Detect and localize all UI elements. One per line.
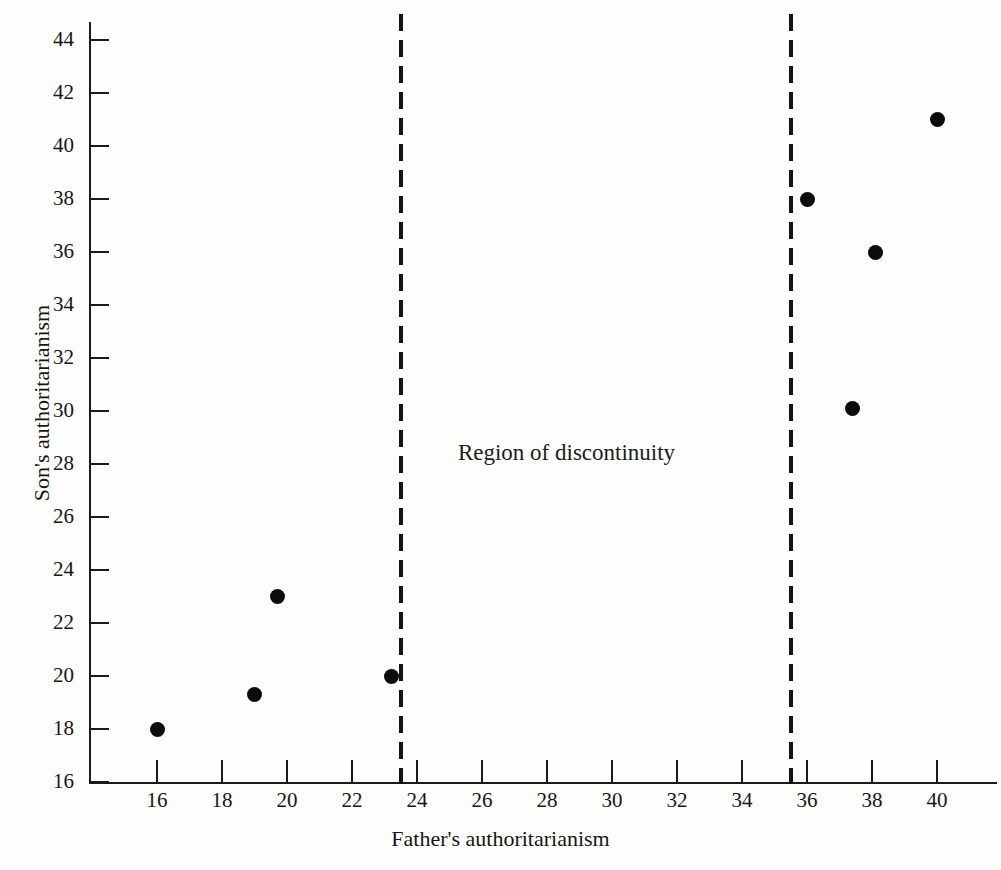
x-axis-tick (871, 760, 873, 782)
x-axis-tick (676, 760, 678, 782)
y-axis-tick-label: 20 (28, 665, 74, 686)
y-axis-line (89, 22, 91, 784)
x-axis-tick (416, 760, 418, 782)
x-axis-tick (611, 760, 613, 782)
x-axis-tick (481, 760, 483, 782)
scatter-plot-figure: 161820222426283032343638404244 161820222… (0, 0, 1001, 870)
x-axis-tick (741, 760, 743, 782)
y-axis-tick (91, 410, 109, 412)
data-point (270, 589, 285, 604)
data-point (247, 687, 262, 702)
y-axis-tick-label: 44 (28, 29, 74, 50)
x-axis-tick-label: 36 (777, 790, 837, 811)
x-axis-tick (156, 760, 158, 782)
y-axis-tick (91, 728, 109, 730)
y-axis-tick (91, 251, 109, 253)
y-axis-tick-label: 38 (28, 188, 74, 209)
data-point (384, 669, 399, 684)
region-of-discontinuity-label: Region of discontinuity (458, 440, 675, 466)
x-axis-tick (286, 760, 288, 782)
x-axis-tick (936, 760, 938, 782)
y-axis-tick-label: 16 (28, 771, 74, 792)
x-axis-tick (806, 760, 808, 782)
x-axis-tick (351, 760, 353, 782)
y-axis-tick-label: 40 (28, 135, 74, 156)
data-point (930, 112, 945, 127)
y-axis-title: Son's authoritarianism (29, 243, 55, 563)
x-axis-tick-label: 34 (712, 790, 772, 811)
x-axis-tick-label: 26 (452, 790, 512, 811)
y-axis-tick (91, 304, 109, 306)
y-axis-tick (91, 622, 109, 624)
discontinuity-boundary-line (399, 14, 403, 784)
x-axis-tick-label: 40 (907, 790, 967, 811)
x-axis-tick (546, 760, 548, 782)
x-axis-tick-label: 30 (582, 790, 642, 811)
x-axis-tick-label: 18 (192, 790, 252, 811)
x-axis-tick (221, 760, 223, 782)
y-axis-tick (91, 92, 109, 94)
data-point (150, 722, 165, 737)
x-axis-title: Father's authoritarianism (0, 826, 1001, 852)
data-point (800, 192, 815, 207)
y-axis-tick-label: 42 (28, 82, 74, 103)
y-axis-tick (91, 569, 109, 571)
x-axis-tick-label: 28 (517, 790, 577, 811)
y-axis-tick-label: 18 (28, 718, 74, 739)
y-axis-tick (91, 198, 109, 200)
x-axis-line (89, 782, 997, 784)
y-axis-tick (91, 463, 109, 465)
y-axis-tick (91, 357, 109, 359)
x-axis-tick-label: 38 (842, 790, 902, 811)
x-axis-tick-label: 32 (647, 790, 707, 811)
y-axis-tick (91, 516, 109, 518)
y-axis-tick (91, 39, 109, 41)
x-axis-tick-label: 20 (257, 790, 317, 811)
y-axis-tick (91, 145, 109, 147)
x-axis-tick-label: 24 (387, 790, 447, 811)
y-axis-tick (91, 675, 109, 677)
x-axis-tick-label: 16 (127, 790, 187, 811)
data-point (845, 401, 860, 416)
x-axis-tick-label: 22 (322, 790, 382, 811)
y-axis-tick (91, 781, 109, 783)
discontinuity-boundary-line (789, 14, 793, 784)
y-axis-tick-label: 22 (28, 612, 74, 633)
data-point (868, 245, 883, 260)
